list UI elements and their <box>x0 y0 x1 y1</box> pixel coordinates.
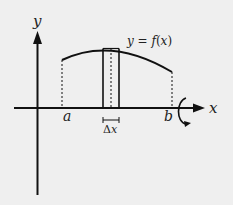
strip-rectangle <box>103 49 119 109</box>
bound-a-label: a <box>63 108 71 124</box>
diagram-canvas: y x a b y = f(x) Δx <box>0 0 233 205</box>
curve-label-eq: = <box>134 34 152 48</box>
y-axis <box>33 31 42 195</box>
solid-of-revolution-diagram: y x a b y = f(x) Δx <box>0 0 233 205</box>
x-axis-label: x <box>209 99 218 117</box>
delta-symbol: Δ <box>103 123 111 136</box>
x-axis <box>14 104 205 113</box>
delta-x-label: Δx <box>103 123 118 136</box>
y-axis-label: y <box>32 12 42 30</box>
bound-b-label: b <box>164 108 173 124</box>
curve-equation-label: y = f(x) <box>126 34 172 48</box>
delta-var: x <box>111 123 118 136</box>
function-curve <box>62 50 172 72</box>
rotation-arrow-icon <box>179 98 192 127</box>
curve-label-close: ) <box>167 34 172 48</box>
y-axis-arrow-icon <box>33 31 42 44</box>
x-axis-arrow-icon <box>193 104 205 113</box>
